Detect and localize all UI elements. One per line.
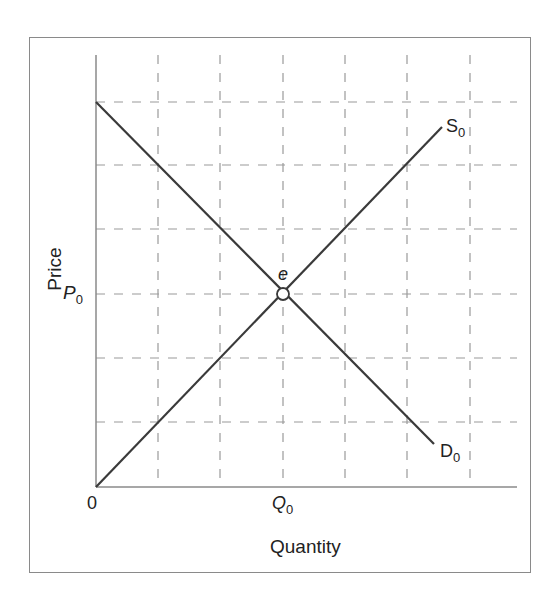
p0-main: P [63,282,76,303]
supply-label: S0 [446,116,465,137]
demand-label: D0 [440,441,460,462]
demand-main: D [440,441,453,461]
supply-sub: 0 [458,125,465,140]
demand-curve-d0 [96,102,434,444]
q0-sub: 0 [286,502,293,517]
demand-sub: 0 [453,450,460,465]
origin-label: 0 [87,493,97,514]
grid-horizontal [96,102,517,422]
p0-tick-label: P0 [63,282,83,304]
equilibrium-label: e [278,264,288,285]
supply-curve-s0 [96,127,442,487]
q0-tick-label: Q0 [272,493,293,514]
supply-main: S [446,116,458,136]
x-axis-label: Quantity [270,536,341,558]
q0-main: Q [272,493,286,513]
p0-sub: 0 [76,292,83,307]
equilibrium-point-marker [277,288,289,300]
